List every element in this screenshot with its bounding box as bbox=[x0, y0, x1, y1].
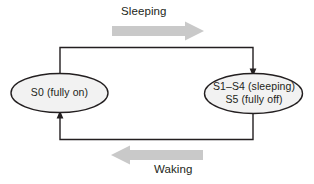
state-node-sleep-line-1: S1–S4 (sleeping) bbox=[205, 80, 303, 93]
state-node-sleep-line-2: S5 (fully off) bbox=[205, 93, 303, 106]
waking-transition-label: Waking bbox=[154, 163, 193, 175]
connector-waking-path bbox=[60, 113, 253, 140]
sleeping-block-arrow bbox=[112, 22, 204, 41]
connector-sleeping-path bbox=[60, 48, 253, 75]
state-transition-diagram: Sleeping Waking S0 (fully on) S1–S4 (sle… bbox=[0, 0, 314, 184]
state-node-s0-line-1: S0 (fully on) bbox=[11, 86, 108, 99]
waking-block-arrow bbox=[111, 146, 203, 165]
state-node-sleep-label: S1–S4 (sleeping) S5 (fully off) bbox=[205, 80, 303, 105]
sleeping-transition-label: Sleeping bbox=[121, 5, 167, 17]
state-node-s0-label: S0 (fully on) bbox=[11, 86, 108, 99]
